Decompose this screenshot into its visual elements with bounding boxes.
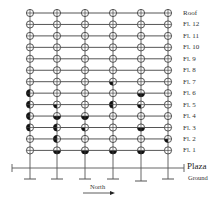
joint-node bbox=[81, 101, 88, 108]
joint-node bbox=[26, 55, 33, 62]
joint-node bbox=[53, 78, 60, 85]
floor-label: Fl. 3 bbox=[183, 124, 196, 132]
joint-node bbox=[137, 9, 144, 16]
damage-fill bbox=[109, 82, 113, 86]
joint-node bbox=[164, 147, 171, 154]
joint-node bbox=[109, 67, 116, 74]
joint-node bbox=[137, 124, 144, 131]
joint-node bbox=[53, 101, 60, 108]
joint-node bbox=[109, 135, 116, 142]
joint-node bbox=[109, 44, 116, 51]
joint-node bbox=[109, 32, 116, 39]
joint-node bbox=[109, 78, 116, 85]
floor-label: Fl. 2 bbox=[183, 135, 196, 143]
floor-label: Fl. 5 bbox=[183, 101, 196, 109]
joint-node bbox=[81, 55, 88, 62]
joint-node bbox=[81, 9, 88, 16]
north-label: North bbox=[90, 183, 105, 191]
joint-node bbox=[26, 112, 33, 119]
damage-fill bbox=[137, 105, 141, 109]
joint-node bbox=[81, 135, 88, 142]
joint-node bbox=[26, 147, 33, 154]
joint-node bbox=[137, 67, 144, 74]
north-arrow-icon bbox=[83, 191, 115, 195]
joint-node bbox=[26, 101, 33, 108]
joint-node bbox=[81, 67, 88, 74]
joint-node bbox=[137, 90, 144, 97]
joint-node bbox=[164, 90, 171, 97]
joint-node bbox=[137, 44, 144, 51]
plaza-label: Plaza bbox=[187, 161, 207, 171]
floor-label: Fl. 10 bbox=[183, 43, 199, 51]
joint-node bbox=[109, 101, 116, 108]
ground-footings bbox=[24, 179, 174, 181]
building-columns bbox=[30, 13, 168, 181]
damage-fill bbox=[53, 105, 57, 109]
floor-label: Roof bbox=[183, 9, 197, 17]
joint-node bbox=[26, 135, 33, 142]
joint-node bbox=[164, 112, 171, 119]
joint-node bbox=[109, 124, 116, 131]
joint-node bbox=[137, 135, 144, 142]
joint-node bbox=[53, 112, 60, 119]
joint-node bbox=[164, 55, 171, 62]
joint-node bbox=[81, 147, 88, 154]
damage-fill bbox=[81, 128, 85, 132]
joint-node bbox=[53, 67, 60, 74]
joint-node bbox=[26, 44, 33, 51]
floor-label: Fl. 4 bbox=[183, 112, 196, 120]
floor-label: Fl. 1 bbox=[183, 146, 196, 154]
joint-node bbox=[26, 32, 33, 39]
joint-node bbox=[137, 78, 144, 85]
joint-node bbox=[53, 21, 60, 28]
joint-node bbox=[26, 78, 33, 85]
floor-label: Fl. 7 bbox=[183, 78, 196, 86]
joint-node bbox=[137, 112, 144, 119]
joint-node bbox=[81, 32, 88, 39]
joint-node bbox=[109, 21, 116, 28]
joint-node bbox=[81, 78, 88, 85]
floor-label: Fl. 6 bbox=[183, 89, 196, 97]
joint-node bbox=[109, 55, 116, 62]
joint-node bbox=[53, 55, 60, 62]
joint-node bbox=[53, 90, 60, 97]
joint-node bbox=[53, 147, 60, 154]
joint-node bbox=[164, 44, 171, 51]
joint-node bbox=[164, 67, 171, 74]
floor-label: Fl. 9 bbox=[183, 55, 196, 63]
damage-fill bbox=[164, 139, 168, 143]
joint-node bbox=[164, 32, 171, 39]
joint-node bbox=[53, 135, 60, 142]
joint-node bbox=[26, 21, 33, 28]
floor-label: Fl. 8 bbox=[183, 66, 196, 74]
joint-node bbox=[109, 90, 116, 97]
joint-node bbox=[164, 21, 171, 28]
floor-label: Fl. 11 bbox=[183, 32, 199, 40]
joint-node bbox=[164, 9, 171, 16]
joint-node bbox=[53, 32, 60, 39]
joint-node bbox=[81, 112, 88, 119]
joint-node bbox=[164, 124, 171, 131]
joint-node bbox=[109, 147, 116, 154]
joint-node bbox=[26, 9, 33, 16]
joint-node bbox=[137, 21, 144, 28]
floor-beams bbox=[30, 13, 168, 150]
joint-node bbox=[53, 9, 60, 16]
joint-node bbox=[137, 32, 144, 39]
joint-node bbox=[26, 67, 33, 74]
joint-node bbox=[137, 147, 144, 154]
joint-node bbox=[81, 90, 88, 97]
joint-node bbox=[137, 101, 144, 108]
joint-node bbox=[81, 44, 88, 51]
joint-node bbox=[53, 124, 60, 131]
joint-node bbox=[164, 78, 171, 85]
joint-node bbox=[164, 101, 171, 108]
joint-node bbox=[26, 90, 33, 97]
floor-label: Fl. 12 bbox=[183, 20, 199, 28]
joint-node bbox=[81, 124, 88, 131]
joint-node bbox=[109, 112, 116, 119]
joint-node bbox=[81, 21, 88, 28]
joint-node bbox=[26, 124, 33, 131]
plaza-line bbox=[12, 164, 184, 172]
ground-label: Ground bbox=[188, 174, 208, 182]
